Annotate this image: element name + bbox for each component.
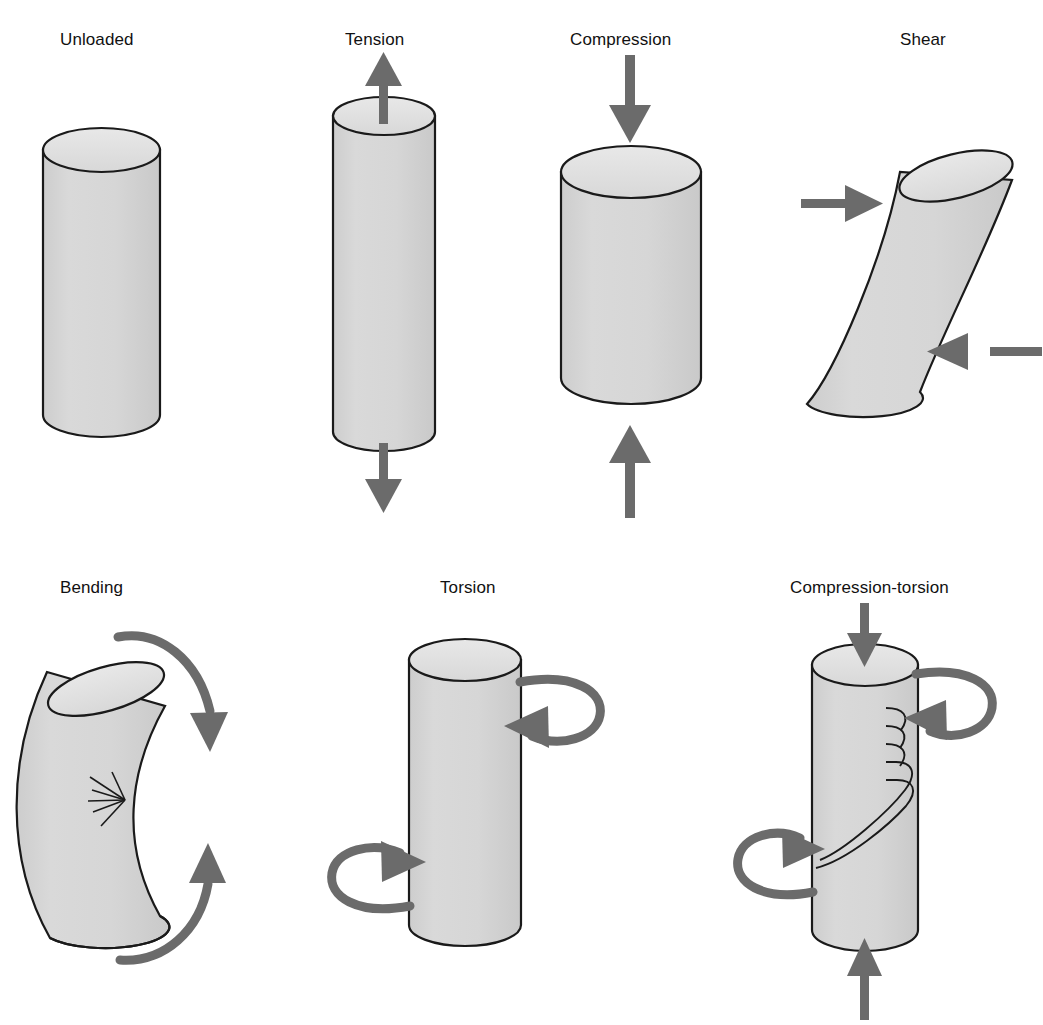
cylinder-body xyxy=(561,172,701,404)
specimen-compression-torsion-cylinder xyxy=(812,644,918,951)
cylinder-body xyxy=(812,665,918,951)
specimen-torsion-cylinder xyxy=(409,639,521,946)
panel-torsion xyxy=(332,639,601,946)
specimen-tension-cylinder xyxy=(333,97,435,451)
panel-compression xyxy=(561,55,701,518)
arrow-tension-down xyxy=(365,443,402,513)
specimen-unloaded-cylinder xyxy=(43,128,160,437)
specimen-compression-cylinder xyxy=(561,146,701,404)
cylinder-body xyxy=(807,172,1012,417)
arrow-shear-right xyxy=(801,185,883,222)
arrow-compression-down xyxy=(609,55,651,143)
diagram-canvas xyxy=(0,0,1043,1025)
loading-modes-figure: Unloaded Tension Compression Shear Bendi… xyxy=(0,0,1043,1025)
cylinder-top-face xyxy=(43,128,160,172)
cylinder-body xyxy=(43,150,160,437)
cylinder-top-face xyxy=(409,639,521,681)
panel-unloaded xyxy=(43,128,160,437)
panel-compression-torsion xyxy=(738,603,993,1020)
panel-tension xyxy=(333,52,435,513)
cylinder-body xyxy=(409,660,521,946)
arrow-shear-left xyxy=(927,333,1042,370)
cylinder-top-face xyxy=(561,146,701,198)
cylinder-body xyxy=(333,116,435,451)
panel-shear xyxy=(801,141,1042,418)
specimen-shear-cylinder xyxy=(807,141,1018,418)
arrow-compression-up xyxy=(609,425,651,518)
specimen-bending-cylinder xyxy=(17,651,170,948)
panel-bending xyxy=(17,636,228,960)
